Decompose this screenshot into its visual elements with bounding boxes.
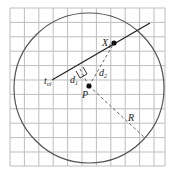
label-d2: d2 [99, 67, 107, 79]
label-d1: d1 [70, 74, 78, 86]
label-r: R [127, 112, 134, 123]
point-x1 [111, 40, 116, 45]
point-p [86, 83, 91, 88]
dashed-segments [80, 43, 145, 138]
label-tol: tol [44, 75, 52, 87]
label-p: P [81, 89, 88, 100]
label-x1: X1 [101, 37, 111, 49]
radius-segment [89, 86, 145, 138]
diagram-canvas: tol X1 d1 d2 P R [0, 0, 173, 178]
